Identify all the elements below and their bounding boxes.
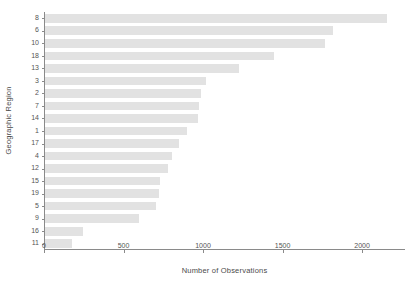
y-tick-mark [42,68,45,69]
y-tick-label: 8 [13,14,39,23]
bar [45,26,333,35]
y-tick-mark [42,219,45,220]
y-tick-label: 11 [13,239,39,248]
bar-fill [45,127,187,136]
y-tick-mark [42,156,45,157]
bar [45,39,325,48]
bar [45,102,199,111]
y-tick-mark [42,56,45,57]
bar-fill [45,152,172,161]
y-tick-label: 1 [13,127,39,136]
bar-fill [45,64,239,73]
bar-fill [45,227,83,236]
x-tick-label: 0 [42,242,46,249]
bar [45,239,72,248]
y-tick-mark [42,18,45,19]
bar [45,139,179,148]
y-tick-label: 5 [13,202,39,211]
y-tick-label: 2 [13,89,39,98]
y-tick-mark [42,81,45,82]
x-tick-label: 2000 [354,242,370,249]
bar-fill [45,189,159,198]
bar-fill [45,177,160,186]
bar [45,114,198,123]
bar [45,177,160,186]
x-tick-mark [203,250,204,253]
x-tick-mark [44,250,45,253]
y-tick-mark [42,169,45,170]
bar [45,64,239,73]
y-tick-label: 14 [13,114,39,123]
bar-fill [45,26,333,35]
x-tick-mark [124,250,125,253]
x-axis-title: Number of Observations [44,266,405,275]
y-tick-label: 10 [13,39,39,48]
y-tick-label: 12 [13,164,39,173]
y-tick-label: 7 [13,102,39,111]
y-tick-label: 17 [13,139,39,148]
x-axis-line [44,249,405,250]
bar-fill [45,89,201,98]
y-tick-label: 15 [13,177,39,186]
bar [45,89,201,98]
y-tick-label: 3 [13,77,39,86]
bar [45,52,274,61]
y-tick-mark [42,144,45,145]
bar-fill [45,52,274,61]
bar [45,164,168,173]
y-tick-mark [42,194,45,195]
bar-fill [45,39,325,48]
bar-fill [45,77,206,86]
x-tick-mark [283,250,284,253]
bar-fill [45,214,139,223]
bar [45,189,159,198]
bar-fill [45,14,387,23]
x-tick-label: 1000 [195,242,211,249]
x-tick-label: 1500 [275,242,291,249]
y-tick-mark [42,31,45,32]
bar-fill [45,102,199,111]
y-tick-mark [42,43,45,44]
y-tick-label: 13 [13,64,39,73]
bar-chart: Geographic Region Number of Observations… [0,0,417,288]
y-tick-label: 18 [13,52,39,61]
y-tick-label: 4 [13,152,39,161]
bar-fill [45,239,72,248]
y-tick-label: 9 [13,214,39,223]
bar-fill [45,139,179,148]
x-tick-label: 500 [118,242,130,249]
y-tick-label: 19 [13,189,39,198]
y-tick-mark [42,181,45,182]
bar [45,127,187,136]
bar [45,77,206,86]
y-tick-mark [42,206,45,207]
y-tick-mark [42,93,45,94]
y-tick-mark [42,118,45,119]
y-tick-mark [42,231,45,232]
bar-fill [45,114,198,123]
bar [45,152,172,161]
x-tick-mark [362,250,363,253]
bar-fill [45,202,156,211]
bar [45,14,387,23]
y-tick-mark [42,131,45,132]
bar [45,214,139,223]
y-tick-label: 16 [13,227,39,236]
y-tick-mark [42,106,45,107]
bar-fill [45,164,168,173]
bar [45,227,83,236]
y-tick-label: 6 [13,26,39,35]
plot-area [44,12,405,250]
bar [45,202,156,211]
